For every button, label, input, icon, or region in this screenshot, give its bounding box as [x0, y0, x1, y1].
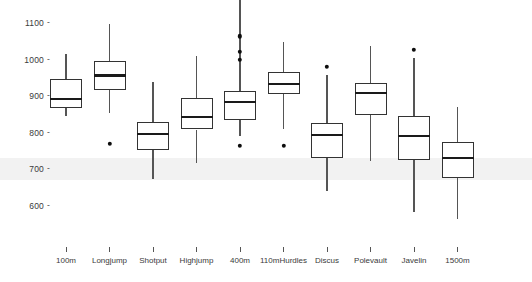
box	[50, 79, 82, 108]
x-tick-label-longjump: Longjump	[92, 256, 127, 265]
median-line	[442, 157, 474, 159]
x-tick-label-1500m: 1500m	[445, 256, 469, 265]
x-tick-mark	[283, 247, 284, 252]
median-line	[311, 134, 343, 136]
box	[224, 91, 256, 120]
y-tick-label: 700	[2, 164, 44, 174]
y-tick-label: 1100	[2, 18, 44, 28]
y-tick-mark: -	[47, 54, 50, 64]
x-tick-mark	[153, 247, 154, 252]
x-tick-label-discus: Discus	[315, 256, 339, 265]
x-tick-mark	[327, 247, 328, 252]
whisker-upper	[109, 24, 110, 61]
median-line	[137, 133, 169, 135]
box	[181, 98, 213, 129]
median-line	[355, 92, 387, 94]
whisker-lower	[326, 158, 327, 192]
y-tick-label: 600	[2, 201, 44, 211]
whisker-upper	[326, 75, 327, 123]
whisker-lower	[370, 115, 371, 161]
median-line	[398, 135, 430, 137]
whisker-lower	[65, 108, 66, 116]
plot-area	[0, 0, 532, 282]
whisker-upper	[152, 82, 153, 122]
x-tick-label-polevault: Polevault	[354, 256, 387, 265]
box	[442, 142, 474, 178]
whisker-lower	[239, 120, 240, 136]
whisker-lower	[413, 160, 414, 212]
outlier-point	[238, 49, 242, 53]
x-tick-mark	[414, 247, 415, 252]
whisker-upper	[65, 54, 66, 79]
x-tick-mark	[66, 247, 67, 252]
y-tick-mark: -	[47, 200, 50, 210]
whisker-lower	[457, 178, 458, 219]
whisker-lower	[196, 130, 197, 163]
whisker-upper	[196, 56, 197, 98]
whisker-upper	[370, 46, 371, 83]
y-tick-label: 900	[2, 91, 44, 101]
y-tick-mark: -	[47, 163, 50, 173]
boxplot-chart: 1100-1000-900-800-700-600- 100mLongjumpS…	[0, 0, 532, 282]
outlier-point	[238, 143, 242, 147]
outlier-point	[412, 48, 416, 52]
x-tick-mark	[457, 247, 458, 252]
x-tick-label-100m: 100m	[56, 256, 76, 265]
x-tick-mark	[370, 247, 371, 252]
outlier-point	[281, 143, 285, 147]
y-tick-label: 1000	[2, 55, 44, 65]
y-tick-mark: -	[47, 17, 50, 27]
x-tick-label-400m: 400m	[230, 256, 250, 265]
median-line	[224, 101, 256, 103]
x-tick-mark	[109, 247, 110, 252]
whisker-upper	[283, 42, 284, 72]
whisker-lower	[109, 90, 110, 114]
whisker-upper	[239, 0, 240, 91]
whisker-lower	[152, 150, 153, 179]
outlier-point	[238, 34, 242, 38]
x-tick-mark	[196, 247, 197, 252]
y-tick-label: 800	[2, 128, 44, 138]
box	[137, 122, 169, 151]
x-tick-label-shotput: Shotput	[139, 256, 167, 265]
y-tick-mark: -	[47, 127, 50, 137]
outlier-point	[325, 64, 329, 68]
box	[355, 83, 387, 115]
x-tick-label-javelin: Javelin	[402, 256, 427, 265]
median-line	[268, 83, 300, 85]
outlier-point	[238, 58, 242, 62]
median-line	[94, 74, 126, 76]
box	[311, 123, 343, 158]
x-tick-label-highjump: Highjump	[180, 256, 214, 265]
x-tick-mark	[240, 247, 241, 252]
median-line	[181, 116, 213, 118]
whisker-upper	[413, 58, 414, 116]
box	[398, 116, 430, 160]
x-tick-label-110mhurdles: 110mHurdles	[260, 256, 307, 265]
outlier-point	[107, 142, 111, 146]
median-line	[50, 98, 82, 100]
whisker-lower	[283, 94, 284, 129]
whisker-upper	[457, 107, 458, 142]
y-tick-mark: -	[47, 90, 50, 100]
